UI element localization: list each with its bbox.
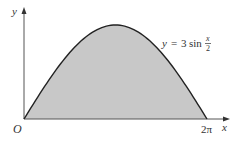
eq-y: y — [161, 37, 167, 49]
y-axis-label: y — [11, 5, 17, 17]
eq-numerator: x — [205, 34, 210, 43]
x-tick-2pi: 2π — [201, 123, 213, 135]
equation-label: y = 3 sin x 2 — [161, 34, 211, 53]
x-axis-label: x — [221, 121, 227, 133]
chart-figure: y O x 2π y = 3 sin x 2 — [0, 0, 234, 144]
eq-denominator: 2 — [206, 44, 210, 53]
shaded-area — [24, 25, 207, 119]
eq-sin: sin — [189, 37, 202, 49]
y-axis-arrow-icon — [22, 7, 27, 14]
eq-coef: 3 — [181, 37, 187, 49]
origin-label: O — [13, 122, 22, 136]
eq-equals: = — [171, 37, 177, 49]
